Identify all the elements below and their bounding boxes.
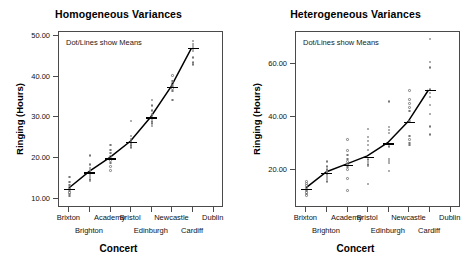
data-point — [326, 165, 329, 168]
data-point — [408, 110, 411, 113]
x-axis-label: Dublin — [439, 213, 460, 222]
y-tick-label: 40.00 — [31, 72, 50, 81]
panel-homogeneous: Homogeneous Variances Ringing (Hours) 10… — [0, 0, 237, 273]
y-tick: 60.00 — [268, 58, 295, 68]
x-tick-mark — [68, 207, 69, 212]
y-tick-label: 20.00 — [31, 153, 50, 162]
data-point — [346, 189, 349, 192]
plot-area: Dot/Lines show Means — [295, 31, 460, 207]
y-tick: 10.00 — [31, 194, 58, 204]
data-point — [408, 102, 411, 105]
x-tick-mark — [388, 207, 389, 212]
data-point — [408, 89, 411, 92]
x-tick-mark — [305, 207, 306, 212]
x-tick-mark — [89, 207, 90, 212]
x-axis-label: Cardiff — [181, 226, 203, 235]
data-point — [346, 177, 349, 180]
mean-marker — [64, 189, 75, 190]
data-point — [109, 169, 112, 172]
data-point — [109, 165, 112, 168]
x-tick-mark — [367, 207, 368, 212]
x-axis-label: Newcastle — [391, 213, 426, 222]
mean-polyline — [69, 48, 191, 188]
y-tick: 20.00 — [31, 153, 58, 163]
x-axis-label: Brixton — [294, 213, 317, 222]
mean-marker — [188, 48, 199, 49]
data-point — [326, 180, 329, 183]
x-tick-mark — [130, 207, 131, 212]
y-axis-ticks: 20.0040.0060.00 — [237, 31, 295, 207]
x-tick-mark — [429, 207, 430, 212]
x-axis-title: Concert — [237, 243, 474, 254]
data-point — [89, 154, 92, 157]
x-axis-label: Cardiff — [418, 226, 440, 235]
data-point — [346, 138, 349, 141]
x-axis-label: Bristol — [120, 213, 141, 222]
x-tick-mark — [110, 207, 111, 212]
x-axis-label: Dublin — [202, 213, 223, 222]
data-point — [388, 100, 391, 103]
mean-marker — [105, 158, 116, 159]
y-tick-label: 40.00 — [268, 112, 287, 121]
data-point — [305, 194, 308, 197]
x-tick-mark — [450, 207, 451, 212]
mean-marker — [363, 157, 374, 158]
mean-marker — [383, 143, 394, 144]
panel-title: Heterogeneous Variances — [237, 8, 474, 20]
x-axis-label: Newcastle — [154, 213, 189, 222]
y-tick-label: 60.00 — [268, 59, 287, 68]
panel-heterogeneous: Heterogeneous Variances Ringing (Hours) … — [237, 0, 474, 273]
x-axis-label: Brighton — [75, 226, 103, 235]
data-point — [151, 109, 154, 112]
data-point — [68, 181, 71, 184]
x-axis-label: Brighton — [312, 226, 340, 235]
x-axis-title: Concert — [0, 243, 237, 254]
y-tick: 40.00 — [31, 71, 58, 81]
y-tick-label: 30.00 — [31, 112, 50, 121]
mean-marker — [84, 172, 95, 173]
mean-marker — [404, 122, 415, 123]
y-tick: 40.00 — [268, 111, 295, 121]
x-axis-label: Brixton — [57, 213, 80, 222]
mean-marker — [342, 165, 353, 166]
data-point — [346, 149, 349, 152]
mean-line — [296, 32, 459, 206]
y-tick-label: 10.00 — [31, 194, 50, 203]
x-axis-label: Bristol — [357, 213, 378, 222]
data-point — [171, 74, 174, 77]
x-tick-mark — [326, 207, 327, 212]
data-point — [408, 106, 411, 109]
data-point — [109, 144, 112, 147]
data-point — [109, 162, 112, 165]
data-point — [326, 160, 329, 163]
mean-marker — [301, 189, 312, 190]
panel-title: Homogeneous Variances — [0, 8, 237, 20]
data-point — [109, 149, 112, 152]
data-point — [89, 163, 92, 166]
x-axis-label: Edinburgh — [134, 226, 168, 235]
mean-marker — [167, 87, 178, 88]
x-tick-mark — [171, 207, 172, 212]
data-point — [388, 145, 391, 148]
plot-area: Dot/Lines show Means — [58, 31, 223, 207]
x-tick-mark — [151, 207, 152, 212]
y-axis-ticks: 10.0020.0030.0040.0050.00 — [0, 31, 58, 207]
x-tick-mark — [347, 207, 348, 212]
x-axis-labels-row-top: BrixtonAcademyBristolNewcastleDublin — [0, 213, 237, 225]
x-tick-mark — [408, 207, 409, 212]
mean-marker — [126, 142, 137, 143]
data-point — [346, 168, 349, 171]
y-tick: 20.00 — [268, 165, 295, 175]
x-axis-labels-row-top: BrixtonAcademyBristolNewcastleDublin — [237, 213, 474, 225]
x-tick-mark — [213, 207, 214, 212]
x-axis-labels-row-bottom: BrightonEdinburghCardiff — [0, 226, 237, 238]
data-point — [171, 90, 174, 93]
data-point — [408, 138, 411, 141]
data-point — [408, 98, 411, 101]
x-tick-mark — [192, 207, 193, 212]
data-point — [68, 176, 71, 179]
y-tick-label: 20.00 — [268, 165, 287, 174]
mean-marker — [146, 117, 157, 118]
x-axis-label: Edinburgh — [371, 226, 405, 235]
data-point — [151, 104, 154, 107]
